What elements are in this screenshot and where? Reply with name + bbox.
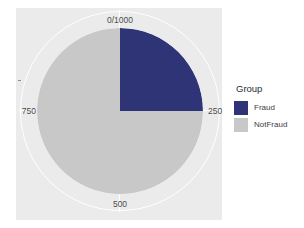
- legend-item-notfraud[interactable]: NotFraud: [234, 117, 302, 133]
- legend-label-notfraud: NotFraud: [254, 121, 287, 129]
- axis-label-top: 0/1000: [107, 16, 133, 25]
- legend-label-fraud: Fraud: [254, 104, 275, 112]
- pie-slices: [37, 28, 203, 194]
- pie-svg: [37, 28, 203, 194]
- legend-swatch-notfraud: [234, 118, 248, 132]
- legend-swatch-fraud: [234, 101, 248, 115]
- pie-slice-notfraud: [120, 28, 203, 111]
- pie-chart-figure: 0/1000 250 500 750 Group Fraud NotFraud: [0, 0, 304, 228]
- axis-label-bottom: 500: [113, 200, 127, 209]
- plot-panel: 0/1000 250 500 750: [16, 8, 222, 220]
- legend: Group Fraud NotFraud: [234, 84, 302, 134]
- legend-item-fraud[interactable]: Fraud: [234, 100, 302, 116]
- axis-tick-mark: [18, 80, 21, 81]
- axis-label-right: 250: [208, 107, 222, 116]
- axis-label-left: 750: [22, 107, 36, 116]
- legend-title: Group: [236, 84, 302, 94]
